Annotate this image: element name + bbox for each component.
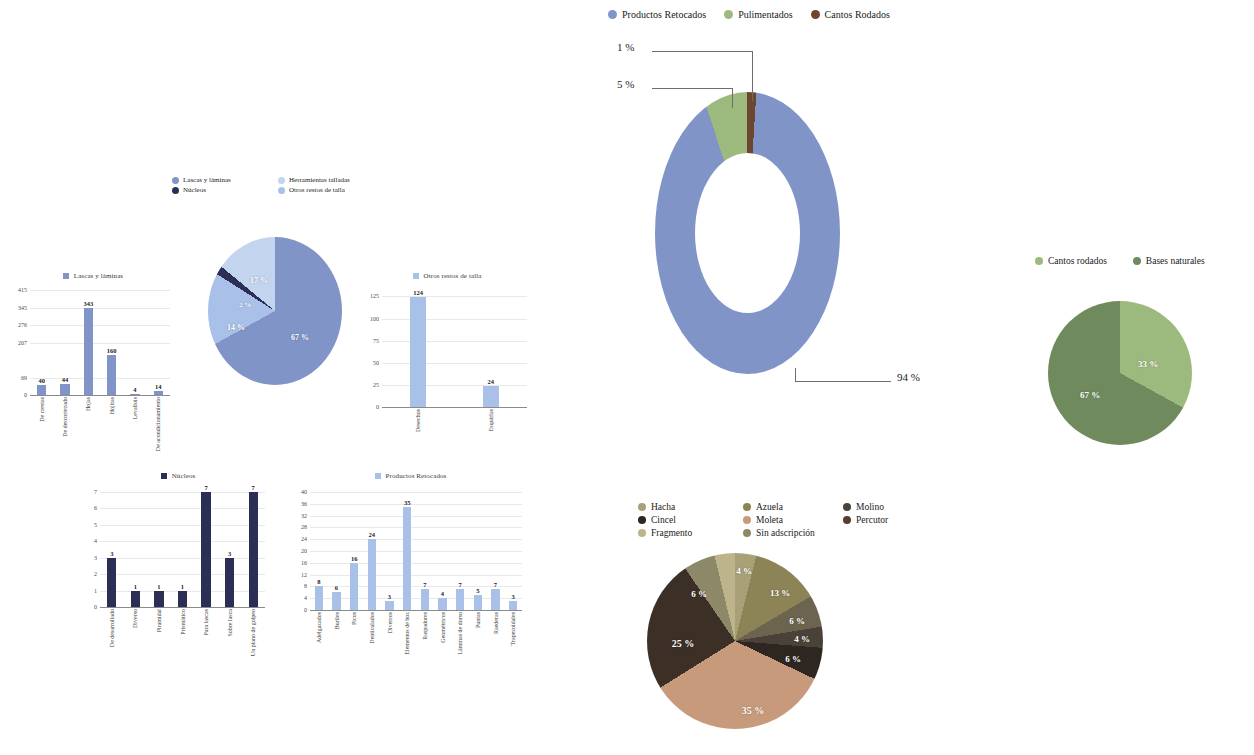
legend-dot-hacha (638, 503, 646, 511)
legend-label-bases-naturales: Bases naturales (1146, 256, 1205, 266)
legend-label-nucleos: Núcleos (183, 186, 206, 194)
legend-dot-productos-retocados (608, 10, 617, 19)
pie-label-pul-25: 25 % (672, 638, 695, 649)
bar[interactable]: 6 (332, 592, 340, 610)
bar[interactable]: 3 (509, 601, 517, 610)
y-axis-tick: 4 (304, 595, 307, 601)
bar-value-label: 6 (335, 584, 338, 591)
legend-item-otros-restos: Otros restos de talla (278, 186, 383, 194)
y-axis-tick: 2 (94, 571, 97, 577)
gridline (382, 296, 527, 297)
y-axis-tick: 69 (21, 375, 27, 381)
gridline (310, 504, 522, 505)
bar[interactable]: 7 (456, 589, 464, 610)
bar[interactable]: 8 (315, 586, 323, 610)
y-axis-tick: 32 (301, 513, 307, 519)
legend-donut: Productos Retocados Pulimentados Cantos … (608, 9, 958, 20)
bar[interactable]: 4 (438, 598, 446, 610)
bar[interactable]: 7 (201, 492, 210, 607)
bar[interactable]: 5 (474, 595, 482, 610)
legend-item-percutor: Percutor (843, 515, 938, 525)
chart-title-label-retocados: Productos Retocados (386, 472, 447, 480)
x-axis-tick-label: De acondicionamiento (155, 397, 161, 451)
pie-label-cantos-67: 67 % (1080, 390, 1100, 400)
bar-value-label: 7 (204, 484, 207, 491)
bar-value-label: 7 (459, 581, 462, 588)
pie-label-pul-6c: 6 % (691, 589, 707, 599)
bar[interactable]: 24 (483, 386, 499, 407)
bar[interactable]: 4 (130, 394, 139, 395)
bar-value-label: 14 (155, 383, 162, 390)
bar[interactable]: 3 (385, 601, 393, 610)
chart-title-lascas: Lascas y láminas (8, 272, 178, 280)
bar-value-label: 1 (134, 583, 137, 590)
bar[interactable]: 1 (131, 591, 140, 607)
bar[interactable]: 343 (84, 308, 93, 395)
legend-item-productos-retocados: Productos Retocados (608, 9, 706, 20)
bar[interactable]: 7 (491, 589, 499, 610)
pie-label-pul-6a: 6 % (789, 616, 805, 626)
y-axis-tick: 0 (24, 392, 27, 398)
plot-area-otros: 0255075100125124Desechos24Esquirlas (382, 292, 527, 407)
gridline (310, 575, 522, 576)
bar[interactable]: 3 (225, 558, 234, 607)
legend-label-cincel: Cincel (651, 515, 676, 525)
legend-cantos-pie: Cantos rodados Bases naturales (1035, 256, 1250, 266)
legend-item-bases-naturales: Bases naturales (1133, 256, 1205, 266)
bar[interactable]: 14 (154, 391, 163, 395)
x-axis-tick-label: Raederas (493, 612, 499, 634)
gridline (310, 586, 522, 587)
pie-label-pul-4a: 4 % (736, 566, 752, 576)
y-axis-tick: 16 (301, 560, 307, 566)
legend-label-sin-adscripcion: Sin adscripción (756, 528, 815, 538)
gridline (30, 290, 170, 291)
bar[interactable]: 3 (107, 558, 116, 607)
donut-callout-94: 94 % (897, 371, 920, 383)
gridline (310, 551, 522, 552)
chart-title-label-otros: Otros restos de talla (424, 272, 482, 280)
x-axis-tick-label: Desechos (415, 409, 421, 432)
x-axis-line (100, 607, 265, 608)
bar[interactable]: 44 (60, 384, 69, 395)
y-axis-tick: 276 (18, 322, 27, 328)
y-axis-tick: 25 (373, 382, 379, 388)
x-axis-tick-label: Raspadores (422, 612, 428, 640)
x-axis-tick-label: Un plano de golpeo (250, 609, 256, 656)
y-axis-tick: 8 (304, 583, 307, 589)
legend-item-fragmento: Fragmento (638, 528, 743, 538)
donut-callout-5: 5 % (617, 78, 634, 90)
plot-area-nucleos: 012345673De desarrollado1Diverso1Piramid… (100, 492, 265, 607)
x-axis-tick-label: Buriles (334, 612, 340, 629)
legend-dot-pulimentados (724, 10, 733, 19)
bar[interactable]: 40 (37, 385, 46, 395)
legend-label-otros-restos: Otros restos de talla (289, 186, 345, 194)
bar[interactable]: 7 (249, 492, 258, 607)
bar-value-label: 3 (512, 593, 515, 600)
legend-item-azuela: Azuela (743, 502, 843, 512)
y-axis-tick: 3 (94, 555, 97, 561)
bar[interactable]: 24 (368, 539, 376, 610)
bar[interactable]: 7 (421, 589, 429, 610)
gridline (100, 541, 265, 542)
y-axis-tick: 100 (370, 316, 379, 322)
legend-item-molino: Molino (843, 502, 938, 512)
donut-leader-5-v (732, 88, 733, 108)
bar[interactable]: 35 (403, 507, 411, 610)
bar[interactable]: 160 (107, 355, 116, 395)
legend-label-pulimentados: Pulimentados (738, 9, 792, 20)
x-axis-tick-label: Esquirlas (488, 409, 494, 431)
bar-value-label: 35 (404, 499, 411, 506)
bar[interactable]: 16 (350, 563, 358, 610)
gridline (100, 574, 265, 575)
bar[interactable]: 1 (178, 591, 187, 607)
legend-swatch-lascas-bar (63, 273, 69, 279)
x-axis-tick-label: De crestas (39, 397, 45, 422)
legend-dot-fragmento (638, 529, 646, 537)
legend-label-percutor: Percutor (856, 515, 888, 525)
bar[interactable]: 1 (154, 591, 163, 607)
pie-label-herramientas: 14 % (227, 323, 245, 332)
y-axis-tick: 24 (301, 536, 307, 542)
legend-dot-percutor (843, 516, 851, 524)
bar-value-label: 16 (351, 555, 358, 562)
bar[interactable]: 124 (410, 297, 426, 407)
